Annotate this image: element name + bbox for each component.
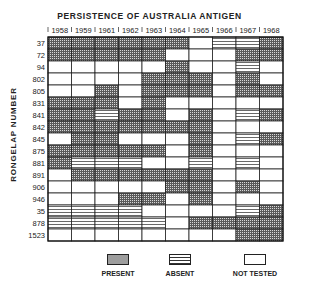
cell-805-1968-present — [260, 85, 284, 97]
cell-881-1964-not-tested — [166, 157, 190, 169]
cell-72-1965-not-tested — [189, 49, 213, 61]
cell-1523-1965-not-tested — [189, 229, 213, 241]
column-label: 1964 — [169, 26, 186, 35]
row-label: 72 — [37, 51, 45, 60]
cell-805-1966-not-tested — [213, 85, 237, 97]
cell-831-1968-not-tested — [260, 97, 284, 109]
cell-906-1961-not-tested — [95, 181, 119, 193]
cell-906-1962-not-tested — [119, 181, 143, 193]
cell-845-1961-present — [95, 133, 119, 145]
cell-35-1961-absent — [95, 205, 119, 217]
cell-35-1962-absent — [119, 205, 143, 217]
cell-841-1961-absent — [95, 109, 119, 121]
legend-label-present: PRESENT — [101, 270, 134, 277]
column-label: 1963 — [145, 26, 162, 35]
cell-878-1968-present — [260, 217, 284, 229]
cell-35-1958-absent — [48, 205, 72, 217]
cell-35-1967-absent — [236, 205, 260, 217]
cell-831-1962-not-tested — [119, 97, 143, 109]
cell-946-1963-present — [142, 193, 166, 205]
cell-946-1965-present — [189, 193, 213, 205]
cell-35-1959-absent — [72, 205, 96, 217]
cell-1523-1961-not-tested — [95, 229, 119, 241]
column-label: 1967 — [239, 26, 256, 35]
cell-891-1962-present — [119, 169, 143, 181]
row-label: 805 — [32, 87, 45, 96]
row-label: 845 — [32, 135, 45, 144]
cell-875-1961-present — [95, 145, 119, 157]
cell-94-1959-not-tested — [72, 61, 96, 73]
cell-881-1958-present — [48, 157, 72, 169]
cell-94-1962-not-tested — [119, 61, 143, 73]
cell-1523-1958-not-tested — [48, 229, 72, 241]
cell-891-1966-not-tested — [213, 169, 237, 181]
cell-802-1961-not-tested — [95, 73, 119, 85]
cell-37-1958-present — [48, 37, 72, 49]
cell-72-1963-present — [142, 49, 166, 61]
cell-842-1964-present — [166, 121, 190, 133]
cell-875-1963-present — [142, 145, 166, 157]
column-label: 1968 — [263, 26, 280, 35]
cell-35-1963-not-tested — [142, 205, 166, 217]
cell-805-1958-not-tested — [48, 85, 72, 97]
cell-881-1965-absent — [189, 157, 213, 169]
cell-891-1968-not-tested — [260, 169, 284, 181]
legend-label-absent: ABSENT — [166, 270, 195, 277]
cell-906-1958-not-tested — [48, 181, 72, 193]
cell-805-1965-present — [189, 85, 213, 97]
cell-831-1964-not-tested — [166, 97, 190, 109]
cell-891-1965-present — [189, 169, 213, 181]
cell-37-1964-present — [166, 37, 190, 49]
cell-1523-1968-present — [260, 229, 284, 241]
cell-1523-1966-not-tested — [213, 229, 237, 241]
row-label: 946 — [32, 195, 45, 204]
cell-881-1966-not-tested — [213, 157, 237, 169]
cell-878-1967-present — [236, 217, 260, 229]
cell-875-1962-present — [119, 145, 143, 157]
cell-35-1964-not-tested — [166, 205, 190, 217]
cell-881-1962-absent — [119, 157, 143, 169]
cell-72-1962-present — [119, 49, 143, 61]
cell-845-1965-present — [189, 133, 213, 145]
cell-842-1962-present — [119, 121, 143, 133]
cell-805-1963-present — [142, 85, 166, 97]
cell-842-1961-present — [95, 121, 119, 133]
column-label: 1958 — [51, 26, 68, 35]
cell-891-1959-present — [72, 169, 96, 181]
row-label: 37 — [37, 39, 45, 48]
cell-842-1968-not-tested — [260, 121, 284, 133]
cell-845-1958-not-tested — [48, 133, 72, 145]
cell-72-1967-present — [236, 49, 260, 61]
cell-802-1958-not-tested — [48, 73, 72, 85]
cell-881-1963-not-tested — [142, 157, 166, 169]
cell-878-1963-absent — [142, 217, 166, 229]
cell-831-1966-not-tested — [213, 97, 237, 109]
cell-841-1962-present — [119, 109, 143, 121]
cell-875-1964-not-tested — [166, 145, 190, 157]
row-label: 875 — [32, 147, 45, 156]
row-label: 831 — [32, 99, 45, 108]
cell-875-1967-not-tested — [236, 145, 260, 157]
cell-841-1968-present — [260, 109, 284, 121]
cell-946-1964-not-tested — [166, 193, 190, 205]
cell-845-1968-present — [260, 133, 284, 145]
cell-875-1965-present — [189, 145, 213, 157]
cell-845-1959-present — [72, 133, 96, 145]
cell-875-1958-present — [48, 145, 72, 157]
row-label: 841 — [32, 111, 45, 120]
cell-845-1967-absent — [236, 133, 260, 145]
cell-37-1965-not-tested — [189, 37, 213, 49]
cell-841-1958-present — [48, 109, 72, 121]
cell-94-1958-not-tested — [48, 61, 72, 73]
cell-841-1965-present — [189, 109, 213, 121]
cell-906-1968-not-tested — [260, 181, 284, 193]
cell-841-1967-absent — [236, 109, 260, 121]
cell-37-1959-present — [72, 37, 96, 49]
cell-842-1959-present — [72, 121, 96, 133]
cell-831-1963-present — [142, 97, 166, 109]
cell-841-1959-present — [72, 109, 96, 121]
cell-1523-1963-not-tested — [142, 229, 166, 241]
cell-805-1962-not-tested — [119, 85, 143, 97]
cell-802-1966-not-tested — [213, 73, 237, 85]
cell-891-1958-not-tested — [48, 169, 72, 181]
